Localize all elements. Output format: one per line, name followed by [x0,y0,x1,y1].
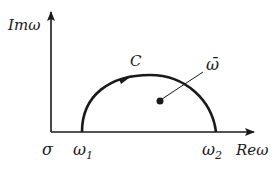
origin-label: σ [42,140,54,159]
interior-point-label: ω̄ [206,55,219,74]
imaginary-axis-label: Imω [7,16,40,34]
contour-diagram: Imω Reω σ ω1 ω2 C ω̄ [0,0,279,169]
omega1-label: ω1 [73,140,93,162]
omega2-label: ω2 [202,140,222,162]
real-axis-label: Reω [235,141,268,159]
contour-label: C [130,52,142,70]
contour-curve [82,75,216,132]
